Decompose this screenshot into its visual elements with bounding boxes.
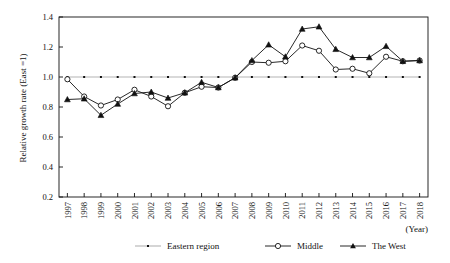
data-point-marker <box>402 76 404 78</box>
data-point-marker <box>167 76 169 78</box>
x-tick-label: 2006 <box>214 202 224 219</box>
x-tick-label: 2003 <box>163 202 173 219</box>
x-tick-label: 2001 <box>130 202 140 219</box>
data-point-marker <box>385 76 387 78</box>
data-point-marker <box>333 67 338 72</box>
x-tick-label: 1997 <box>63 202 73 219</box>
x-tick-label: 2009 <box>264 202 274 219</box>
x-tick-label: 2016 <box>381 202 391 219</box>
legend-marker-open-circle-icon <box>275 243 280 248</box>
data-point-marker <box>368 76 370 78</box>
data-point-marker <box>133 76 135 78</box>
data-point-marker <box>367 71 372 76</box>
chart-background <box>0 0 450 263</box>
x-axis-title: (Year) <box>405 224 428 234</box>
x-tick-label: 1999 <box>96 202 106 219</box>
y-tick-label: 1.4 <box>42 12 53 22</box>
data-point-marker <box>150 76 152 78</box>
x-tick-label: 2011 <box>297 202 307 219</box>
x-tick-label: 2008 <box>247 202 257 219</box>
x-tick-label: 2002 <box>146 202 156 219</box>
x-tick-label: 2017 <box>398 202 408 219</box>
data-point-marker <box>419 76 421 78</box>
data-point-marker <box>251 76 253 78</box>
data-point-marker <box>184 76 186 78</box>
data-point-marker <box>335 76 337 78</box>
x-tick-label: 2007 <box>230 202 240 219</box>
x-tick-label: 2004 <box>180 201 190 219</box>
x-tick-label: 2013 <box>331 202 341 219</box>
y-tick-label: 0.4 <box>42 162 53 172</box>
data-point-marker <box>316 48 321 53</box>
data-point-marker <box>318 76 320 78</box>
data-point-marker <box>65 77 70 82</box>
data-point-marker <box>201 76 203 78</box>
legend-marker-small-dot-icon <box>147 245 149 247</box>
data-point-marker <box>300 43 305 48</box>
data-point-marker <box>283 59 288 64</box>
y-tick-label: 1.0 <box>42 72 53 82</box>
data-point-marker <box>266 60 271 65</box>
x-tick-label: 2012 <box>314 202 324 219</box>
x-tick-label: 2000 <box>113 202 123 219</box>
chart-figure: Relative growth rate (East =1) 0.20.40.6… <box>0 0 450 263</box>
data-point-marker <box>199 84 204 89</box>
x-tick-label: 2005 <box>197 202 207 219</box>
data-point-marker <box>284 76 286 78</box>
y-tick-label: 0.2 <box>42 192 53 202</box>
legend-label: Eastern region <box>167 241 220 251</box>
data-point-marker <box>217 76 219 78</box>
y-tick-label: 0.6 <box>42 132 53 142</box>
y-axis-title: Relative growth rate (East =1) <box>18 53 28 162</box>
data-point-marker <box>350 66 355 71</box>
data-point-marker <box>268 76 270 78</box>
relative-growth-rate-line-chart: Relative growth rate (East =1) 0.20.40.6… <box>0 0 450 263</box>
y-tick-label: 1.2 <box>42 42 53 52</box>
x-tick-label: 2018 <box>415 202 425 219</box>
data-point-marker <box>100 76 102 78</box>
data-point-marker <box>383 54 388 59</box>
data-point-marker <box>301 76 303 78</box>
x-tick-label: 1998 <box>79 202 89 219</box>
x-tick-label: 2014 <box>348 201 358 219</box>
legend-label: Middle <box>297 241 323 251</box>
x-tick-label: 2010 <box>281 202 291 219</box>
data-point-marker <box>83 76 85 78</box>
data-point-marker <box>98 103 103 108</box>
y-tick-label: 0.8 <box>42 102 53 112</box>
data-point-marker <box>165 104 170 109</box>
x-tick-label: 2015 <box>364 202 374 219</box>
data-point-marker <box>352 76 354 78</box>
data-point-marker <box>117 76 119 78</box>
legend-label: The West <box>372 241 406 251</box>
data-point-marker <box>149 94 154 99</box>
